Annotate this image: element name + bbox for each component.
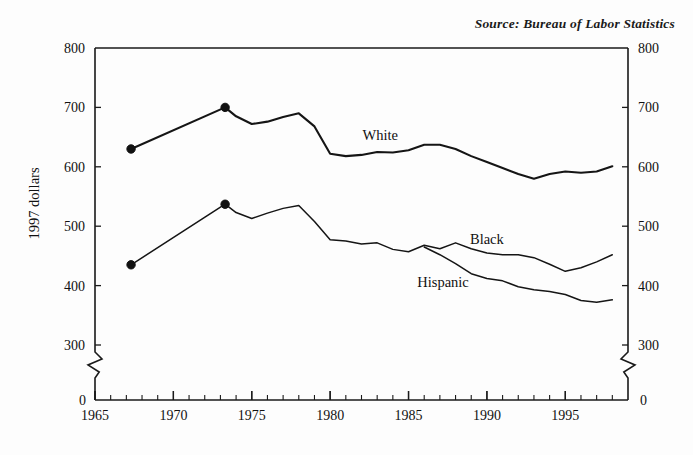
y-axis-right [621,48,635,400]
x-tick-label: 1970 [159,408,187,423]
series-marker-black [221,200,229,208]
axes-group: 3003004004005005006006007007008008000019… [64,41,659,423]
y-tick-label-left: 800 [64,41,85,56]
y-tick-label-right: 600 [638,160,659,175]
x-tick-label: 1980 [316,408,344,423]
series-marker-white [221,103,229,111]
x-tick-label: 1975 [238,408,266,423]
series-marker-black [127,261,135,269]
chart-page: Source: Bureau of Labor Statistics 1997 … [0,0,693,455]
y-tick-label-left: 500 [64,219,85,234]
series-label-black: Black [470,231,505,247]
x-tick-label: 1985 [395,408,423,423]
y-tick-label-left: 600 [64,160,85,175]
x-tick-label: 1995 [551,408,579,423]
y-tick-label-left: 400 [64,279,85,294]
y-tick-label-left: 300 [64,338,85,353]
y-tick-label-right: 300 [638,338,659,353]
y-tick-label-right: 700 [638,100,659,115]
x-tick-label: 1990 [473,408,501,423]
y-tick-label-right: 400 [638,279,659,294]
series-label-white: White [363,127,398,143]
series-marker-white [127,145,135,153]
series-label-hispanic: Hispanic [417,274,469,290]
y-axis-left [88,48,102,400]
series-line-black [131,204,612,271]
y-zero-label-right: 0 [640,393,647,408]
line-chart: 3003004004005005006006007007008008000019… [0,0,693,455]
y-tick-label-right: 500 [638,219,659,234]
y-tick-label-left: 700 [64,100,85,115]
x-tick-label: 1965 [81,408,109,423]
y-zero-label-left: 0 [79,393,86,408]
y-tick-label-right: 800 [638,41,659,56]
